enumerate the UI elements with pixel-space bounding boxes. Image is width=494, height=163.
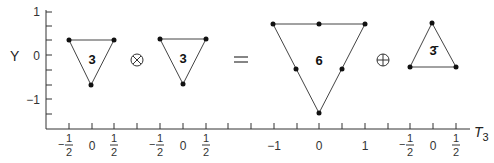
sextet-6: 6: [271, 22, 368, 116]
svg-text:0: 0: [180, 139, 187, 153]
svg-text:0: 0: [430, 139, 437, 153]
svg-text:2: 2: [203, 146, 209, 158]
svg-text:1: 1: [66, 132, 72, 144]
y-tick-label-1: 1: [33, 5, 40, 19]
svg-text:1: 1: [407, 132, 413, 144]
svg-text:2: 2: [407, 146, 413, 158]
svg-text:−: −: [399, 138, 405, 150]
rep-label-3: 3: [179, 51, 186, 66]
group2-ticks: − 12 0 12: [149, 132, 210, 158]
rep-label-3bar: 3̄: [429, 43, 438, 58]
y-axis: 1 0 −1 Y: [10, 5, 52, 129]
svg-text:−1: −1: [267, 139, 281, 153]
svg-text:2: 2: [111, 146, 117, 158]
svg-text:0: 0: [316, 139, 323, 153]
group3-ticks: −1 0 1: [267, 139, 369, 153]
svg-text:1: 1: [362, 139, 369, 153]
group4-ticks: − 12 0 12: [399, 132, 460, 158]
svg-text:1: 1: [453, 132, 459, 144]
weight-diagram: 1 0 −1 Y T3: [0, 0, 494, 163]
x-tick-labels: − 12 0 12 − 12 0 12 −1 0 1 − 12 0 12: [58, 132, 460, 158]
svg-text:−: −: [149, 138, 155, 150]
svg-text:1: 1: [203, 132, 209, 144]
svg-text:1: 1: [157, 132, 163, 144]
svg-text:0: 0: [89, 139, 96, 153]
svg-text:−: −: [58, 138, 64, 150]
group1-ticks: − 12 0 12: [58, 132, 118, 158]
tensor-product-icon: [131, 54, 143, 66]
rep-label-3: 3: [88, 52, 95, 67]
svg-text:2: 2: [66, 146, 72, 158]
y-tick-label-0: 0: [33, 49, 40, 63]
triplet-3-second: 3: [158, 37, 209, 87]
rep-label-6: 6: [315, 53, 322, 68]
svg-text:1: 1: [111, 132, 117, 144]
svg-text:2: 2: [157, 146, 163, 158]
y-axis-title: Y: [10, 48, 20, 64]
x-axis-title: T3: [474, 124, 489, 143]
svg-text:2: 2: [453, 146, 459, 158]
triplet-3-first: 3: [67, 38, 117, 88]
equals-icon: [234, 57, 248, 62]
y-tick-label-minus-1: −1: [26, 93, 40, 107]
antitriplet-3bar: 3̄: [408, 21, 459, 70]
direct-sum-icon: [377, 54, 389, 66]
